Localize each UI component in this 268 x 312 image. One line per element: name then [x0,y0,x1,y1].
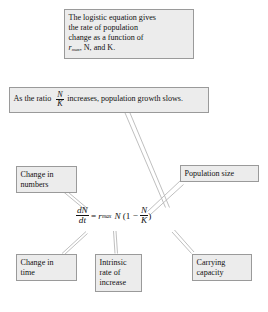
max-subscript: max [72,47,80,52]
connector-carrying-to-k-b [175,230,195,252]
population-size-box: Population size [180,165,259,182]
equation-ratio-denominator: K [140,216,148,225]
dn-over-dt-fraction: dN dt [76,206,89,226]
rate-subscript: max [102,213,111,219]
equation-lhs-denominator: dt [78,216,87,225]
connector-intrinsic-to-rmax-b [116,231,118,254]
connector-intrinsic-to-rmax [114,231,116,254]
change-in-numbers-box: Change in numbers [16,166,77,193]
description-line-1: The logistic equation gives [69,13,190,23]
change-in-numbers-line-2: numbers [21,180,73,190]
connector-population-to-n-b [151,185,184,215]
description-line-2: the rate of population [69,23,190,33]
change-in-time-line-2: time [21,268,73,278]
connector-carrying-to-k [172,232,192,254]
intrinsic-rate-box: Intrinsic rate of increase [95,254,142,292]
carrying-capacity-line-1: Carrying [197,258,248,268]
ratio-statement-line: As the ratio N K increases, population g… [14,90,205,108]
connector-time-to-dt [62,232,86,254]
equals-sign: = [89,211,99,221]
ratio-statement-box: As the ratio N K increases, population g… [9,87,209,113]
connector-ratio-to-equation-a [123,107,166,208]
connector-ratio-to-equation-b [128,107,170,208]
logistic-equation: dN dt = rmax N ( 1 − N K ) [76,206,151,226]
fraction-denominator: K [56,100,63,108]
change-in-numbers-line-1: Change in [21,170,73,180]
intrinsic-rate-line-1: Intrinsic [100,258,138,268]
ratio-text-after: increases, population growth slows. [67,94,183,104]
description-line-4: rmax, N, and K. [69,43,190,55]
carrying-capacity-line-2: capacity [197,268,248,278]
minus-sign: − [133,211,138,221]
population-size-label: Population size [185,169,255,179]
description-line-4-suffix: , N, and K. [80,43,116,52]
connector-population-to-n-a [148,181,181,212]
logistic-equation-diagram: The logistic equation gives the rate of … [0,0,268,312]
logistic-equation-description-box: The logistic equation gives the rate of … [64,9,194,59]
close-paren: ) [148,211,151,221]
connector-time-to-dt-b [64,234,88,256]
intrinsic-rate-line-3: increase [100,278,138,288]
population-symbol: N [114,211,120,221]
carrying-capacity-box: Carrying capacity [192,254,252,281]
change-in-time-box: Change in time [16,254,77,281]
equation-n-over-k-fraction: N K [140,206,148,226]
change-in-time-line-1: Change in [21,258,73,268]
description-line-3: change as a function of [69,33,190,43]
n-over-k-fraction: N K [56,91,63,109]
intrinsic-rate-line-2: rate of [100,268,138,278]
one-literal: 1 [126,211,131,221]
ratio-text-before: As the ratio [14,94,52,104]
